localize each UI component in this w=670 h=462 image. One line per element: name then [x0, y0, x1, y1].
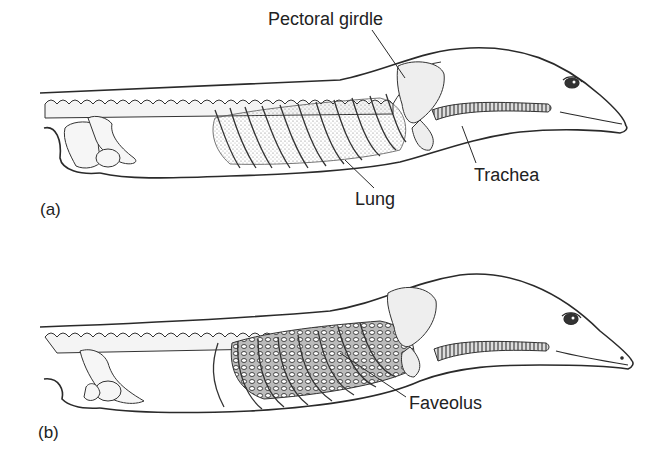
illustration-faveolar-lung — [0, 231, 670, 462]
panel-b: Faveolus (b) — [0, 231, 670, 462]
head — [560, 77, 622, 124]
label-lung: Lung — [355, 190, 395, 208]
trachea — [434, 341, 549, 361]
illustration-simple-lung — [0, 0, 670, 231]
leader-lung — [345, 160, 374, 188]
pelvic-girdle — [80, 350, 144, 404]
leader-trachea — [462, 126, 476, 163]
label-pectoral-girdle: Pectoral girdle — [268, 10, 383, 28]
panel-letter-a: (a) — [40, 201, 61, 218]
faveolar-lung — [231, 321, 414, 399]
trachea — [432, 102, 551, 120]
eye-icon — [564, 314, 578, 325]
label-trachea: Trachea — [474, 166, 539, 184]
pelvic-girdle — [64, 116, 135, 168]
panel-a: Pectoral girdle Trachea Lung (a) — [0, 0, 670, 231]
head — [556, 313, 628, 365]
label-faveolus: Faveolus — [409, 394, 482, 412]
panel-letter-b: (b) — [38, 424, 59, 441]
eye-icon — [565, 78, 579, 88]
